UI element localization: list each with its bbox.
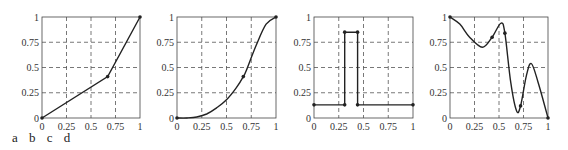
x-tick-label: 0.25 [466,121,484,132]
y-tick-label: 0 [306,113,311,124]
y-tick-label: 0.75 [157,37,175,48]
y-tick-label: 0.25 [22,87,40,98]
x-tick-label: 0.75 [380,121,398,132]
y-tick-label: 1 [306,12,311,23]
knot-point [411,103,415,107]
knot-point [343,103,347,107]
y-tick-label: 0.25 [430,87,448,98]
chart-panel-c: 00.250.50.75100.250.50.751 [294,12,416,133]
knot-point [312,103,316,107]
caption-b: b [29,130,38,145]
caption-d: d [64,130,73,145]
x-tick-label: 0.5 [493,121,506,132]
y-tick-label: 0.5 [435,62,448,73]
y-tick-label: 1 [169,12,174,23]
y-tick-label: 0.5 [27,62,40,73]
knot-point [503,31,507,35]
y-tick-label: 0.75 [22,37,40,48]
x-tick-label: 0.25 [193,121,211,132]
panel-caption: a b c d [12,130,76,146]
x-tick-label: 0.75 [243,121,261,132]
x-tick-label: 0.75 [107,121,125,132]
x-tick-label: 0.5 [220,121,233,132]
knot-point [356,103,360,107]
knot-point [274,15,278,19]
knot-point [175,116,179,120]
x-tick-label: 0 [312,121,317,132]
chart-panel-d: 00.250.50.75100.250.50.751 [430,12,551,133]
knot-point [343,30,347,34]
knot-point [242,75,246,79]
knot-point [490,35,494,39]
x-tick-label: 0.25 [330,121,348,132]
caption-c: c [47,130,55,145]
chart-panels: 00.250.50.75100.250.50.75100.250.50.7510… [0,0,568,150]
knot-point [106,75,110,79]
x-tick-label: 1 [546,121,551,132]
x-tick-label: 1 [411,121,416,132]
y-tick-label: 0.75 [430,37,448,48]
knot-point [138,15,142,19]
knot-point [40,116,44,120]
y-tick-label: 0.5 [299,62,312,73]
y-tick-label: 1 [34,12,39,23]
knot-point [356,30,360,34]
x-tick-label: 0 [448,121,453,132]
x-tick-label: 0 [175,121,180,132]
caption-a: a [12,130,20,145]
chart-panel-a: 00.250.50.75100.250.50.751 [22,12,143,133]
y-tick-label: 0.25 [294,87,312,98]
y-tick-label: 0.25 [157,87,175,98]
y-tick-label: 1 [442,12,447,23]
knot-point [519,104,523,108]
y-tick-label: 0 [34,113,39,124]
y-tick-label: 0 [442,113,447,124]
x-tick-label: 1 [138,121,143,132]
y-tick-label: 0.75 [294,37,312,48]
x-tick-label: 0.5 [357,121,370,132]
knot-point [546,116,550,120]
y-tick-label: 0.5 [162,62,175,73]
chart-panel-b: 00.250.50.75100.250.50.751 [157,12,279,133]
x-tick-label: 0.75 [515,121,533,132]
y-tick-label: 0 [169,113,174,124]
knot-point [448,15,452,19]
x-tick-label: 1 [274,121,279,132]
x-tick-label: 0.5 [85,121,98,132]
